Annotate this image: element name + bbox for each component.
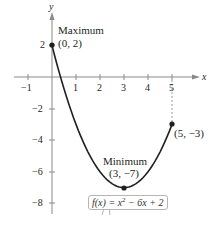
y-tick-label: −8: [32, 198, 43, 208]
x-tick-label: 3: [121, 83, 126, 93]
x-tick-label: 2: [97, 83, 102, 93]
x-axis-arrow: [192, 75, 200, 80]
minimum-coords: (3, −7): [109, 168, 139, 179]
formula-rhs: = x: [106, 197, 122, 208]
y-tick-label: 2: [40, 40, 45, 50]
y-tick-label: −2: [32, 104, 43, 114]
x-tick-label: −1: [21, 83, 32, 93]
x-tick-label: 1: [73, 83, 78, 93]
endpoint-coords: (5, −3): [174, 128, 204, 139]
y-tick-label: −4: [32, 135, 43, 145]
x-tick-label: 5: [169, 83, 174, 93]
endpoint-point: [169, 121, 174, 126]
formula-callout: f(x) = x2 − 6x + 2: [88, 195, 168, 210]
maximum-point: [49, 42, 54, 47]
x-tick-label: 4: [145, 83, 150, 93]
x-axis-label: x: [202, 72, 206, 82]
y-axis-arrow: [50, 12, 55, 20]
formula-lhs: f(x): [92, 197, 106, 208]
minimum-point: [121, 185, 126, 190]
y-tick-label: −6: [32, 167, 43, 177]
y-axis-label: y: [49, 2, 53, 12]
minimum-label: Minimum: [103, 156, 147, 167]
formula-tail: − 6x + 2: [126, 197, 164, 208]
parabola-chart: [0, 0, 214, 228]
maximum-label: Maximum: [58, 25, 104, 36]
maximum-coords: (0, 2): [58, 38, 82, 49]
